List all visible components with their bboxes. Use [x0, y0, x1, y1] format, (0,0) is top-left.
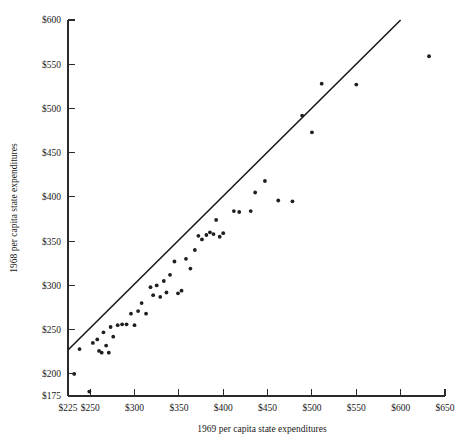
y-tick-label: $450 — [42, 148, 61, 158]
data-point — [276, 199, 280, 203]
data-point — [87, 390, 91, 394]
x-tick-label: $250 — [81, 403, 100, 413]
data-point — [144, 312, 148, 316]
x-tick-label: $350 — [169, 403, 188, 413]
plot-canvas: $175$200$250$300$350$400$450$500$550$600… — [0, 0, 458, 446]
data-points — [72, 54, 431, 393]
data-point — [102, 330, 106, 334]
x-tick-label: $550 — [347, 403, 366, 413]
data-point — [116, 323, 120, 327]
data-point — [354, 83, 358, 87]
data-point — [136, 309, 140, 313]
data-point — [253, 191, 257, 195]
identity-reference-line — [68, 20, 401, 350]
x-tick-label: $300 — [125, 403, 144, 413]
y-tick-label: $600 — [42, 15, 61, 25]
y-tick-labels: $175$200$250$300$350$400$450$500$550$600 — [42, 15, 61, 401]
y-tick-label: $350 — [42, 237, 61, 247]
data-point — [300, 114, 304, 118]
x-tick-label: $400 — [214, 403, 233, 413]
data-point — [200, 238, 204, 242]
y-tick-label: $550 — [42, 60, 61, 70]
scatter-plot-figure: $175$200$250$300$350$400$450$500$550$600… — [0, 0, 458, 446]
data-point — [214, 218, 218, 222]
data-point — [208, 230, 212, 234]
x-axis-title: 1969 per capita state expenditures — [197, 424, 327, 434]
y-tick-label: $500 — [42, 104, 61, 114]
data-point — [184, 257, 188, 261]
data-point — [72, 372, 76, 376]
data-point — [427, 54, 431, 58]
data-point — [125, 322, 129, 326]
data-point — [158, 295, 162, 299]
data-point — [109, 325, 113, 329]
y-tick-label: $200 — [42, 369, 61, 379]
y-tick-label: $300 — [42, 281, 61, 291]
data-point — [218, 235, 222, 239]
data-point — [189, 267, 193, 271]
data-point — [78, 347, 82, 351]
data-point — [149, 285, 153, 289]
data-point — [193, 248, 197, 252]
axes — [68, 20, 445, 396]
data-point — [320, 82, 324, 86]
data-point — [212, 232, 216, 236]
data-point — [140, 301, 144, 305]
data-point — [95, 337, 99, 341]
data-point — [162, 279, 166, 283]
data-point — [165, 291, 169, 295]
data-point — [111, 335, 115, 339]
data-point — [180, 289, 184, 293]
x-tick-labels: $225$250$300$350$400$450$500$550$600$650 — [59, 403, 455, 413]
x-tick-label: $500 — [302, 403, 321, 413]
data-point — [221, 231, 225, 235]
data-point — [107, 351, 111, 355]
y-tick-label: $250 — [42, 325, 61, 335]
data-point — [310, 130, 314, 134]
tick-marks — [68, 20, 445, 396]
y-axis-title: 1968 per capita state expenditures — [9, 143, 19, 273]
data-point — [91, 341, 95, 345]
data-point — [232, 209, 236, 213]
data-point — [237, 210, 241, 214]
data-point — [204, 233, 208, 237]
data-point — [100, 351, 104, 355]
data-point — [263, 179, 267, 183]
data-point — [104, 344, 108, 348]
x-tick-label: $225 — [59, 403, 78, 413]
data-point — [249, 209, 253, 213]
data-point — [168, 273, 172, 277]
reference-line — [68, 20, 401, 350]
x-tick-label: $450 — [258, 403, 277, 413]
data-point — [176, 291, 180, 295]
data-point — [120, 322, 124, 326]
y-tick-label: $175 — [42, 391, 61, 401]
x-tick-label: $650 — [436, 403, 455, 413]
data-point — [151, 293, 155, 297]
data-point — [155, 284, 159, 288]
data-point — [173, 260, 177, 264]
x-tick-label: $600 — [391, 403, 410, 413]
data-point — [196, 234, 200, 238]
y-tick-label: $400 — [42, 192, 61, 202]
data-point — [291, 199, 295, 203]
data-point — [133, 323, 137, 327]
data-point — [129, 312, 133, 316]
